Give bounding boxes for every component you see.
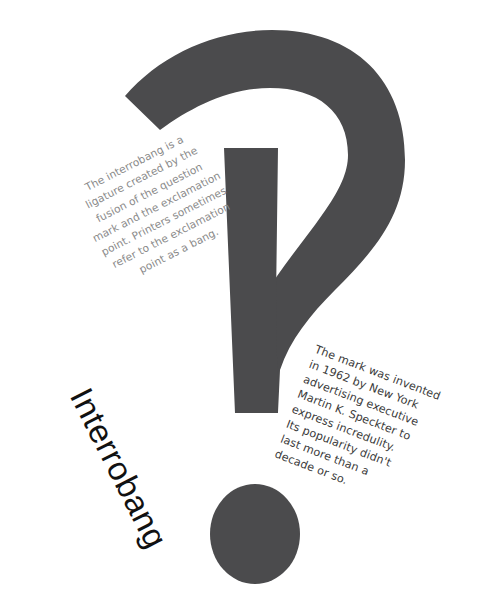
dot-shape xyxy=(210,484,300,584)
interrobang-poster: The interrobang is a ligature created by… xyxy=(0,0,494,606)
